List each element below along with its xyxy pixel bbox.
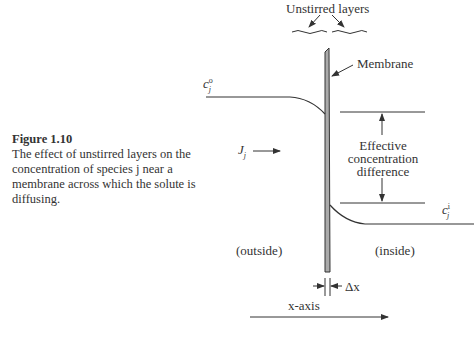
figure-number: Figure 1.10	[12, 132, 212, 147]
outside-label: (outside)	[236, 243, 282, 259]
x-axis-label: x-axis	[288, 298, 320, 314]
inside-concentration-curve	[330, 205, 474, 224]
membrane-pointer	[332, 65, 353, 76]
membrane	[325, 48, 330, 272]
unstirred-layers-label: Unstirred layers	[286, 1, 369, 17]
flux-label: Jj	[238, 142, 246, 160]
delta-x-label: Δx	[345, 279, 360, 295]
unstirred-layer-left	[292, 31, 327, 34]
membrane-label: Membrane	[357, 56, 413, 72]
c-inside-label: cij	[442, 202, 449, 220]
unstirred-layer-right	[332, 31, 367, 34]
figure-caption-text: The effect of unstirred layers on the co…	[12, 147, 196, 206]
c-outside-label: coj	[203, 76, 211, 94]
effective-difference-label: Effective concentration difference	[345, 139, 421, 178]
figure-caption: Figure 1.10 The effect of unstirred laye…	[12, 132, 212, 207]
inside-label: (inside)	[375, 243, 415, 259]
outside-concentration-curve	[206, 97, 325, 114]
